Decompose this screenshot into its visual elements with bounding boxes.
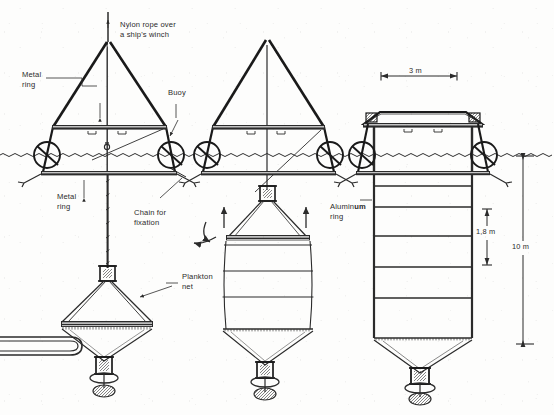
buoy-right-starboard xyxy=(471,142,497,168)
sampling-hose xyxy=(0,337,82,355)
dimension-label-1-8m: 1,8 m xyxy=(476,227,495,237)
label-chain-for-fixation: Chain for fixation xyxy=(134,208,166,227)
dimension-ring-spacing xyxy=(474,209,500,265)
label-plankton-net: Plankton net xyxy=(182,272,213,291)
enclosure-posts-right xyxy=(374,127,472,175)
label-metal-ring-lower: Metal ring xyxy=(57,192,76,211)
top-frame-right xyxy=(363,112,483,132)
label-buoy: Buoy xyxy=(168,88,186,98)
label-metal-ring-top: Metal ring xyxy=(22,70,41,89)
nylon-rope-left xyxy=(106,12,109,268)
bridle-middle xyxy=(228,201,307,237)
dimension-label-10m: 10 m xyxy=(512,242,529,252)
metal-ring-upper-left xyxy=(52,125,167,150)
a-frame-middle xyxy=(203,40,334,192)
label-nylon-rope: Nylon rope over a ship's winch xyxy=(120,20,176,39)
enclosure-right xyxy=(374,175,472,340)
enclosure-wall-middle xyxy=(223,241,314,329)
metal-ring-upper-middle xyxy=(212,125,325,134)
legs-right xyxy=(358,124,488,172)
cod-end-weight-middle xyxy=(251,362,279,400)
plankton-net-left xyxy=(61,281,153,361)
label-aluminum-ring-bold: um xyxy=(354,202,366,211)
metal-ring-lower-left xyxy=(41,171,177,175)
aluminum-ring-middle-top xyxy=(226,235,310,240)
fixation-chain-right xyxy=(334,174,512,187)
label-aluminum-ring: Aluminum ring xyxy=(330,202,366,221)
buoy-right-port xyxy=(349,142,375,168)
fixation-chain-left xyxy=(18,168,200,187)
metal-ring-lower-right xyxy=(356,171,490,175)
aluminum-rings-stack xyxy=(374,186,472,338)
fixation-chain-middle xyxy=(179,174,358,187)
cod-end-weight-left xyxy=(90,357,118,397)
a-frame-left xyxy=(43,42,175,172)
diagram-svg xyxy=(0,0,554,415)
leader-lines-left xyxy=(46,20,182,297)
buoy-left-port xyxy=(34,142,60,168)
label-aluminum-ring-post: ring xyxy=(330,212,343,221)
dimension-label-3m: 3 m xyxy=(409,66,422,76)
shackle-block-left xyxy=(98,266,117,281)
label-aluminum-ring-pre: Alumin xyxy=(330,202,354,211)
water-line xyxy=(0,154,552,157)
aluminum-ring-middle-bottom xyxy=(223,329,313,331)
curved-arrow-icon xyxy=(204,222,210,242)
metal-ring-lower-middle xyxy=(201,171,336,175)
cone-middle xyxy=(223,331,313,365)
buoy-middle-starboard xyxy=(317,142,343,168)
diagram-canvas: Nylon rope over a ship's winch Metal rin… xyxy=(0,0,554,415)
cod-end-weight-right xyxy=(405,368,435,405)
